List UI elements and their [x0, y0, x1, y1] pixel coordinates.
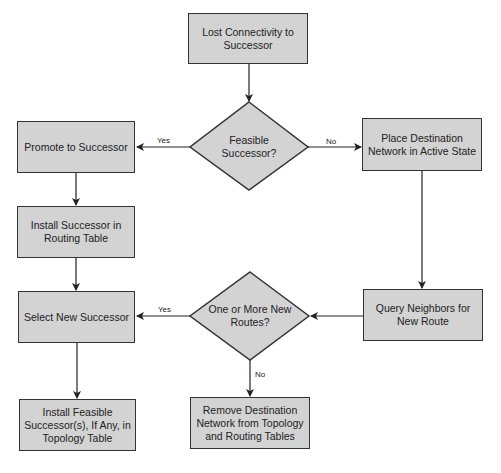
- edge-label-feasible-no: No: [326, 137, 336, 146]
- node-text: Query Neighbors for New Route: [368, 302, 478, 328]
- node-text: Remove Destination Network from Topology…: [195, 404, 305, 443]
- process-install-feasible-successors: Install Feasible Successor(s), If Any, i…: [19, 399, 136, 451]
- edge-label-routes-no: No: [255, 370, 265, 379]
- process-remove-destination: Remove Destination Network from Topology…: [190, 397, 310, 449]
- process-promote-to-successor: Promote to Successor: [17, 121, 135, 173]
- node-text: Place Destination Network in Active Stat…: [367, 132, 477, 158]
- node-text: Install Feasible Successor(s), If Any, i…: [24, 406, 131, 445]
- node-text: One or More New Routes?: [206, 303, 294, 329]
- node-text: Feasible Successor?: [205, 134, 293, 160]
- process-select-new-successor: Select New Successor: [18, 291, 135, 343]
- node-text: Select New Successor: [24, 311, 129, 324]
- node-text: Promote to Successor: [24, 141, 127, 154]
- node-text: Lost Connectivity to Successor: [193, 26, 303, 52]
- process-lost-connectivity: Lost Connectivity to Successor: [188, 13, 308, 64]
- edge-label-routes-yes: Yes: [158, 305, 171, 314]
- decision-new-routes: One or More New Routes?: [206, 299, 294, 333]
- edge-label-feasible-yes: Yes: [157, 136, 170, 145]
- process-place-active-state: Place Destination Network in Active Stat…: [362, 118, 482, 171]
- process-install-successor: Install Successor in Routing Table: [17, 206, 135, 258]
- decision-feasible-successor: Feasible Successor?: [205, 130, 293, 164]
- node-text: Install Successor in Routing Table: [22, 219, 130, 245]
- process-query-neighbors: Query Neighbors for New Route: [363, 289, 483, 341]
